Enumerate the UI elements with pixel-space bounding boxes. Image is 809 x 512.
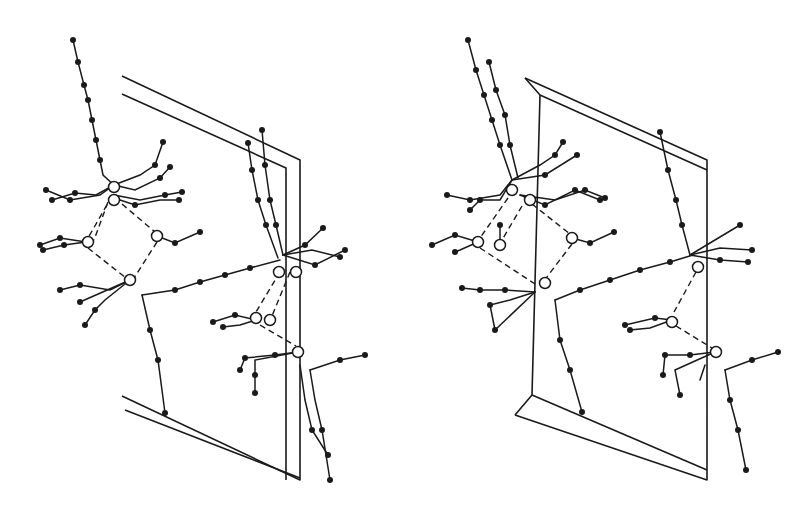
hydrogen-bonds <box>480 198 712 348</box>
covalent-bonds <box>432 40 778 470</box>
stereo-view-right <box>0 0 809 512</box>
stereo-figure <box>0 0 809 512</box>
carbon-atoms <box>429 37 781 473</box>
oxygen-atoms <box>473 185 722 358</box>
